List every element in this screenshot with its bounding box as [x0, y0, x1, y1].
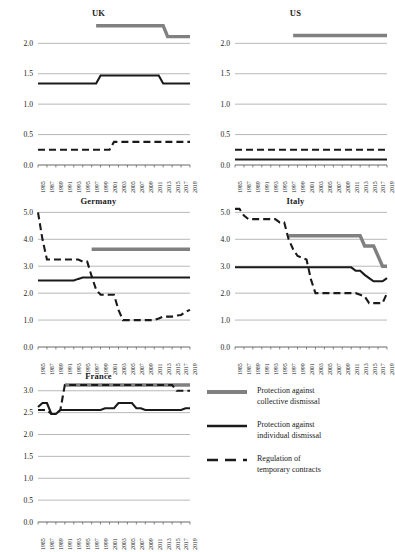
x-axis-tick-label: 2009: [148, 538, 154, 550]
x-axis-tick-label: 1989: [58, 538, 64, 550]
y-axis-tick-label: 4.0: [221, 235, 231, 244]
x-axis-tick-label: 2003: [318, 363, 324, 375]
x-axis-tick-label: 1991: [264, 363, 270, 375]
x-axis-tick-label: 1993: [76, 538, 82, 550]
legend-label-individual: Protection against individual dismissal: [249, 420, 321, 441]
series-line: [38, 278, 190, 281]
y-axis-tick-label: 2.0: [24, 289, 34, 298]
y-axis-tick-label: 0.0: [24, 518, 34, 527]
y-axis-tick-label: 3.0: [24, 386, 34, 395]
x-axis-tick-label: 1993: [273, 363, 279, 375]
legend-label-individual-line1: Protection against: [257, 420, 321, 431]
x-axis-tick-label: 1987: [49, 538, 55, 550]
x-axis-tick-label: 2007: [336, 181, 342, 193]
x-axis-tick-label: 2015: [372, 181, 378, 193]
x-axis-tick-label: 2009: [345, 181, 351, 193]
x-axis-tick-label: 1999: [300, 363, 306, 375]
x-axis-tick-label: 2003: [121, 181, 127, 193]
series-line: [289, 236, 387, 266]
plot-uk: 0.00.51.01.52.01985198719891991199319951…: [0, 19, 197, 171]
plot-france: 0.00.51.01.52.02.53.01985198719891991199…: [0, 382, 197, 528]
panel-title-italy: Italy: [197, 196, 394, 206]
legend-key-temporary-icon: [205, 454, 249, 468]
y-axis-tick-label: 2.5: [24, 408, 34, 417]
x-axis-tick-label: 2019: [389, 181, 395, 193]
x-axis-tick-label: 2009: [345, 363, 351, 375]
x-axis-tick-label: 2001: [309, 181, 315, 193]
x-axis-tick-label: 2013: [166, 538, 172, 550]
y-axis-tick-label: 3.0: [221, 262, 231, 271]
legend-label-individual-line2: individual dismissal: [257, 431, 321, 442]
panel-us: US 0.00.51.01.52.01985198719891991199319…: [197, 8, 394, 195]
x-axis-tick-label: 2005: [130, 181, 136, 193]
x-axis-tick-label: 1989: [58, 181, 64, 193]
plot-germany: 0.01.02.03.04.05.01985198719891991199319…: [0, 207, 197, 353]
plot-svg: 0.01.02.03.04.05.0: [197, 207, 394, 353]
panel-title-us: US: [197, 8, 394, 18]
x-axis-tick-label: 1993: [273, 181, 279, 193]
y-axis-tick-label: 1.0: [221, 316, 231, 325]
panel-title-france: France: [0, 371, 197, 381]
x-axis-tick-label: 1995: [85, 181, 91, 193]
x-axis-tick-label: 1995: [85, 538, 91, 550]
x-axis-tick-label: 2011: [354, 364, 360, 375]
y-axis-tick-label: 0.5: [221, 130, 231, 139]
x-axis-tick-label: 1987: [246, 181, 252, 193]
y-axis-tick-label: 2.0: [24, 430, 34, 439]
x-axis-tick-label: 2015: [372, 363, 378, 375]
y-axis-tick-label: 1.0: [24, 474, 34, 483]
legend-label-collective-line2: collective dismissal: [257, 397, 320, 408]
legend-item-collective: Protection against collective dismissal: [205, 386, 390, 407]
y-axis-tick-label: 5.0: [24, 208, 34, 217]
series-line: [38, 142, 190, 150]
x-axis-tick-label: 2005: [327, 181, 333, 193]
legend-item-temporary: Regulation of temporary contracts: [205, 454, 390, 475]
chart-legend: Protection against collective dismissal …: [205, 386, 390, 475]
y-axis-tick-label: 0.0: [221, 161, 231, 170]
legend-label-temporary-line2: temporary contracts: [257, 465, 321, 476]
x-axis-tick-label: 2011: [157, 182, 163, 193]
y-axis-tick-label: 0.5: [24, 496, 34, 505]
x-axis-tick-label: 1985: [40, 181, 46, 193]
x-axis-tick-label: 2011: [354, 182, 360, 193]
x-axis-tick-label: 1999: [300, 181, 306, 193]
y-axis-tick-label: 0.5: [24, 130, 34, 139]
series-line: [96, 26, 190, 37]
panel-france: France 0.00.51.01.52.02.53.0198519871989…: [0, 371, 197, 552]
legend-item-individual: Protection against individual dismissal: [205, 420, 390, 441]
x-axis-tick-label: 2017: [380, 181, 386, 193]
x-axis-tick-label: 2013: [363, 363, 369, 375]
x-axis-tick-label: 1997: [291, 363, 297, 375]
x-axis-tick-label: 2015: [175, 181, 181, 193]
x-axis-tick-label: 2011: [157, 539, 163, 550]
y-axis-tick-label: 1.5: [24, 69, 34, 78]
x-axis-tick-label: 2017: [183, 538, 189, 550]
x-axis-tick-label: 1985: [237, 363, 243, 375]
plot-svg: 0.00.51.01.52.02.53.0: [0, 382, 197, 528]
y-axis-tick-label: 1.5: [24, 452, 34, 461]
x-axis-tick-label: 1989: [255, 181, 261, 193]
legend-label-temporary-line1: Regulation of: [257, 454, 321, 465]
x-axis-tick-label: 1999: [103, 538, 109, 550]
x-axis-tick-label: 2019: [192, 538, 198, 550]
x-axis-tick-label: 1985: [237, 181, 243, 193]
x-axis-tick-label: 2017: [380, 363, 386, 375]
y-axis-tick-label: 2.0: [221, 39, 231, 48]
x-axis-tick-label: 1985: [40, 538, 46, 550]
x-axis-tick-label: 2005: [130, 538, 136, 550]
y-axis-tick-label: 1.0: [24, 316, 34, 325]
x-axis-tick-label: 1997: [94, 538, 100, 550]
y-axis-tick-label: 5.0: [221, 208, 231, 217]
x-axis-tick-label: 2003: [318, 181, 324, 193]
plot-svg: 0.01.02.03.04.05.0: [0, 207, 197, 353]
plot-us: 0.00.51.01.52.01985198719891991199319951…: [197, 19, 394, 171]
x-axis-tick-label: 2001: [112, 538, 118, 550]
y-axis-tick-label: 1.5: [221, 69, 231, 78]
x-axis-tick-label: 2009: [148, 181, 154, 193]
x-axis-tick-label: 2019: [389, 363, 395, 375]
y-axis-tick-label: 1.0: [24, 100, 34, 109]
x-axis-tick-label: 1991: [67, 181, 73, 193]
x-axis-tick-label: 1997: [291, 181, 297, 193]
x-axis-tick-label: 2007: [139, 538, 145, 550]
